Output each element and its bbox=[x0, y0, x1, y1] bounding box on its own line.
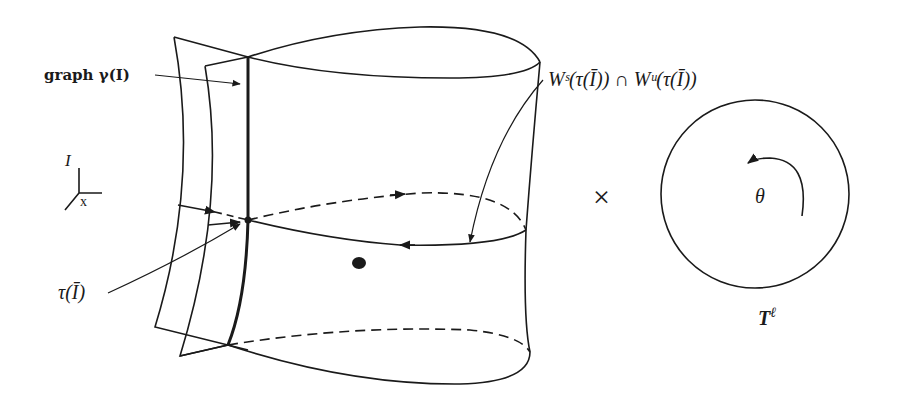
theta-label: θ bbox=[755, 185, 765, 208]
axis-I-label: I bbox=[65, 151, 71, 171]
diagram-canvas bbox=[0, 0, 905, 409]
times-symbol: × bbox=[593, 180, 610, 214]
cylinder-top-front bbox=[248, 57, 540, 78]
tau-point bbox=[245, 217, 252, 224]
middle-loop-solid bbox=[248, 220, 526, 245]
ink-blot bbox=[352, 257, 366, 269]
graph-gamma-label: graph γ(I) bbox=[44, 66, 130, 84]
cylinder-right-edge bbox=[525, 62, 540, 352]
bottom-loop-solid bbox=[228, 345, 530, 384]
graph-line bbox=[228, 57, 248, 345]
cylinder-top-back bbox=[248, 27, 540, 62]
tau-label: τ(Ī) bbox=[58, 281, 85, 304]
diagram-figure: graph γ(I) Wˢ(τ(Ī)) ∩ Wᵘ(τ(Ī)) τ(Ī) I x … bbox=[0, 0, 905, 409]
axis-x-label: x bbox=[80, 194, 87, 210]
bottom-loop-dashed bbox=[228, 329, 530, 352]
torus-label: Tℓ bbox=[758, 305, 776, 330]
middle-loop-dashed bbox=[248, 193, 526, 230]
intersection-label: Wˢ(τ(Ī)) ∩ Wᵘ(τ(Ī)) bbox=[548, 68, 697, 91]
